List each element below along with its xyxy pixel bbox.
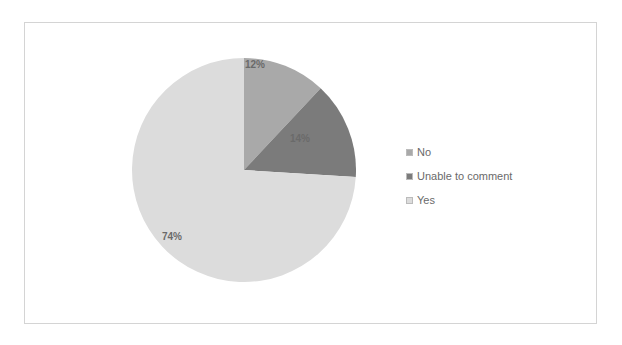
slice-label-yes: 74% xyxy=(162,231,182,242)
legend-item-yes: Yes xyxy=(406,188,512,212)
legend-label-yes: Yes xyxy=(417,194,435,206)
legend-label-no: No xyxy=(417,146,431,158)
legend-item-unable-to-comment: Unable to comment xyxy=(406,164,512,188)
slice-label-no: 12% xyxy=(245,59,265,70)
pie-chart: 12%14%74% xyxy=(0,0,622,345)
legend: No Unable to comment Yes xyxy=(406,140,512,212)
legend-swatch-no xyxy=(406,149,413,156)
legend-item-no: No xyxy=(406,140,512,164)
legend-label-unable-to-comment: Unable to comment xyxy=(417,170,512,182)
slice-label-unable-to-comment: 14% xyxy=(290,133,310,144)
legend-swatch-unable-to-comment xyxy=(406,173,413,180)
legend-swatch-yes xyxy=(406,197,413,204)
